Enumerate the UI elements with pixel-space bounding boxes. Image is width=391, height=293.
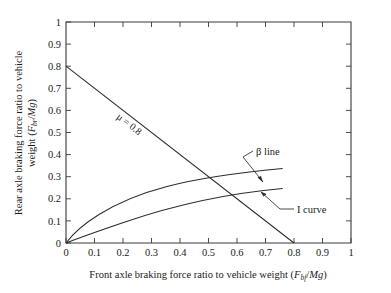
y-tick-label: 0	[56, 238, 61, 249]
y-axis-title-line1: Rear axle braking force ratio to vehicle	[13, 50, 24, 215]
y-axis-title-prefix: weight (	[26, 132, 38, 167]
beta-line-annotation: β line	[243, 146, 280, 183]
y-tick-labels: 0 0.1 0.2 0.3 0.4 0.5 0.6 0.7 0.8 0.9 1	[48, 17, 62, 249]
y-axis-title-close: )	[26, 98, 38, 102]
y-tick-label: 0.4	[48, 149, 62, 160]
y-tick-label: 0.7	[48, 83, 61, 94]
x-tick-label: 0.7	[259, 247, 272, 258]
y-axis-right-ticks	[346, 44, 351, 221]
y-tick-label: 1	[56, 17, 61, 28]
x-axis-title-denominator: Mg	[308, 269, 323, 280]
beta-line-label: β line	[256, 146, 280, 157]
x-axis-title: Front axle braking force ratio to vehicl…	[89, 269, 327, 282]
chart-svg: 0 0.1 0.2 0.3 0.4 0.5 0.6 0.7 0.8 0.9 1 …	[0, 0, 391, 293]
x-tick-label: 0	[63, 247, 68, 258]
x-tick-label: 0.3	[145, 247, 158, 258]
y-axis-title-line2: weight (Fbr/Mg)	[26, 98, 39, 167]
chart-figure: 0 0.1 0.2 0.3 0.4 0.5 0.6 0.7 0.8 0.9 1 …	[0, 0, 391, 293]
y-axis-title: Rear axle braking force ratio to vehicle…	[13, 50, 39, 215]
y-tick-label: 0.5	[48, 127, 61, 138]
y-axis-title-denominator: Mg	[26, 102, 37, 117]
x-tick-label: 0.9	[316, 247, 329, 258]
x-tick-label: 0.5	[202, 247, 215, 258]
y-tick-label: 0.2	[48, 193, 61, 204]
x-tick-label: 1	[348, 247, 353, 258]
beta-line-arrowhead	[258, 176, 264, 183]
x-tick-label: 0.2	[116, 247, 129, 258]
y-tick-label: 0.8	[48, 61, 61, 72]
x-axis-ticks	[66, 238, 351, 243]
y-axis-ticks	[66, 22, 71, 243]
y-tick-label: 0.9	[48, 39, 61, 50]
x-tick-label: 0.4	[173, 247, 187, 258]
x-tick-label: 0.1	[88, 247, 101, 258]
x-tick-label: 0.8	[287, 247, 300, 258]
x-axis-top-ticks	[95, 22, 323, 27]
x-tick-label: 0.6	[230, 247, 243, 258]
y-tick-label: 0.3	[48, 171, 61, 182]
i-curve-annotation: I curve	[261, 192, 327, 216]
y-tick-label: 0.1	[48, 216, 61, 227]
i-curve-label: I curve	[297, 204, 327, 215]
i-curve-series	[66, 169, 283, 244]
x-axis-title-main: Front axle braking force ratio to vehicl…	[89, 269, 294, 281]
svg-text:Front axle braking force ratio: Front axle braking force ratio to vehicl…	[89, 269, 327, 282]
beta-line-series	[66, 189, 283, 244]
x-axis-title-close: )	[323, 269, 327, 281]
y-tick-label: 0.6	[48, 105, 61, 116]
x-tick-labels: 0 0.1 0.2 0.3 0.4 0.5 0.6 0.7 0.8 0.9 1	[63, 247, 353, 258]
